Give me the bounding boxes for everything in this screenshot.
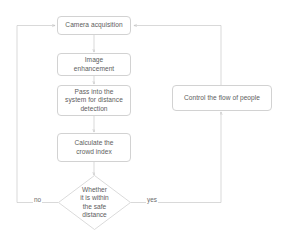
edge-label-no: no — [33, 196, 42, 203]
node-image-enhancement[interactable]: Image enhancement — [57, 53, 131, 76]
edge-label-yes: yes — [146, 196, 158, 203]
edge-control-to-camera — [134, 26, 221, 86]
node-calculate-crowd-index-label: Calculate the crowd index — [74, 139, 113, 156]
node-pass-into-system-label: Pass into the system for distance detect… — [65, 88, 123, 114]
node-safe-distance-decision-label: Whether it is within the safe distance — [80, 186, 109, 220]
node-camera-acquisition[interactable]: Camera acquisition — [57, 16, 131, 35]
node-calculate-crowd-index[interactable]: Calculate the crowd index — [57, 133, 131, 162]
node-control-flow-of-people[interactable]: Control the flow of people — [172, 85, 272, 111]
edge-no-branch — [17, 26, 58, 203]
flowchart-canvas: Camera acquisition Image enhancement Pas… — [0, 0, 282, 243]
node-safe-distance-decision[interactable]: Whether it is within the safe distance — [58, 175, 131, 230]
node-pass-into-system[interactable]: Pass into the system for distance detect… — [57, 85, 131, 116]
flowchart-edges — [0, 0, 282, 243]
edge-yes-branch — [131, 112, 221, 203]
node-camera-acquisition-label: Camera acquisition — [65, 21, 122, 30]
node-control-flow-of-people-label: Control the flow of people — [184, 94, 260, 103]
node-image-enhancement-label: Image enhancement — [74, 56, 115, 73]
